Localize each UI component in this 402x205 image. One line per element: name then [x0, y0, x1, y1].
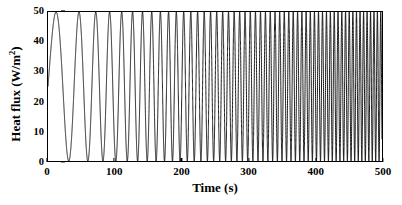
y-tick-label: 30 — [34, 66, 45, 77]
x-tick-mark — [248, 158, 249, 162]
x-tick-label: 500 — [375, 166, 392, 177]
y-tick-label: 0 — [39, 157, 44, 168]
y-axis-title-exponent: 2 — [7, 51, 17, 55]
x-tick-label: 300 — [240, 166, 257, 177]
x-axis-title: Time (s) — [47, 180, 383, 196]
y-tick-label: 20 — [34, 96, 45, 107]
x-tick-mark — [46, 158, 47, 162]
y-axis-title-main: Heat flux (W/m — [8, 55, 23, 142]
x-tick-mark — [114, 158, 115, 162]
y-axis-title: Heat flux (W/m2) — [8, 14, 24, 174]
y-tick-label: 10 — [34, 127, 45, 138]
heat-flux-curve — [48, 12, 382, 161]
x-tick-mark — [181, 158, 182, 162]
x-tick-label: 200 — [173, 166, 190, 177]
plot-area — [47, 11, 383, 162]
y-tick-label: 50 — [34, 6, 45, 17]
x-tick-label: 100 — [106, 166, 123, 177]
x-tick-mark — [382, 158, 383, 162]
y-tick-label: 40 — [34, 36, 45, 47]
x-tick-mark — [315, 158, 316, 162]
x-tick-label: 0 — [44, 166, 50, 177]
y-axis-title-tail: ) — [8, 46, 23, 50]
chart-figure: 01020304050 0100200300400500 Time (s) He… — [0, 0, 402, 205]
x-tick-label: 400 — [308, 166, 325, 177]
